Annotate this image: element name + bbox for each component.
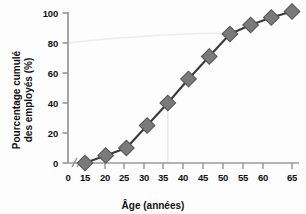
x-tick-label-65: 65 [287, 172, 297, 183]
y-tick-label-100: 100 [36, 8, 58, 19]
chart-container: 100 80 60 40 20 0 0 15 20 25 30 35 40 45… [0, 0, 306, 214]
y-tick-label-0: 0 [36, 158, 58, 169]
data-point [98, 148, 114, 164]
data-point [264, 10, 280, 26]
x-axis-title: Âge (années) [0, 200, 306, 211]
y-tick-label-40: 40 [36, 98, 58, 109]
x-tick-label-35: 35 [158, 172, 168, 183]
x-tick-label-25: 25 [119, 172, 129, 183]
y-tick-label-20: 20 [36, 128, 58, 139]
guide-lines [68, 33, 223, 163]
y-axis-title-line-1: Pourcentage cumulé [11, 51, 22, 149]
x-tick-label-50: 50 [218, 172, 228, 183]
y-axis-ticks [63, 13, 69, 163]
x-tick-label-0: 0 [65, 172, 70, 183]
data-point-markers [77, 4, 300, 171]
y-tick-label-60: 60 [36, 68, 58, 79]
y-tick-label-80: 80 [36, 38, 58, 49]
guide-line-80-percent [68, 33, 223, 43]
x-tick-label-45: 45 [198, 172, 208, 183]
x-tick-label-40: 40 [178, 172, 188, 183]
y-axis-title: Pourcentage cumulé des employés (%) [11, 30, 35, 170]
data-point [77, 155, 93, 171]
x-tick-label-55: 55 [238, 172, 248, 183]
data-point [284, 4, 300, 20]
y-axis-title-line-2: des employés (%) [23, 30, 35, 170]
x-tick-label-20: 20 [100, 172, 110, 183]
x-tick-label-15: 15 [80, 172, 90, 183]
x-tick-label-30: 30 [139, 172, 149, 183]
data-point [243, 17, 259, 33]
x-axis-ticks [85, 163, 292, 169]
x-tick-label-60: 60 [258, 172, 268, 183]
